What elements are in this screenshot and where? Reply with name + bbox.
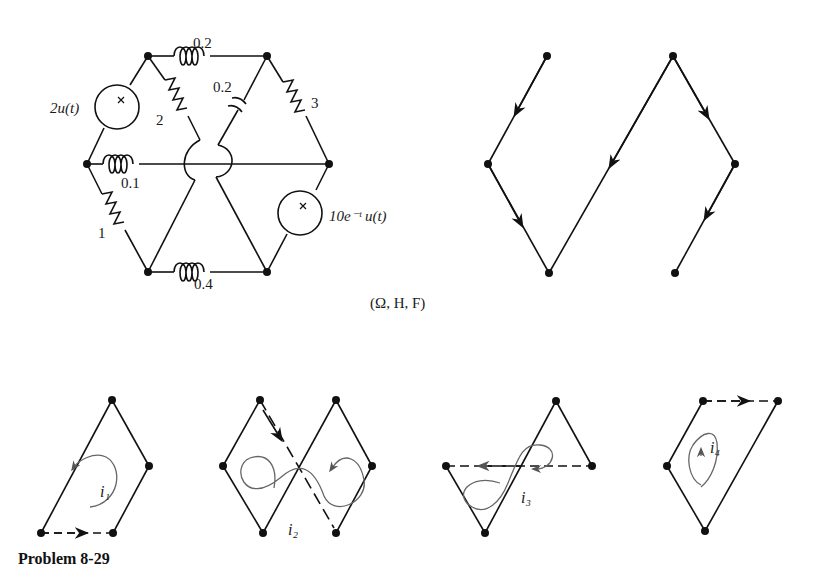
loop-4 xyxy=(667,401,778,531)
label-loop-i4: i₄ xyxy=(710,440,720,456)
source-right xyxy=(267,164,329,272)
label-loop-i2: i₂ xyxy=(288,522,298,538)
label-source-left: 2u(t) xyxy=(50,101,79,116)
source-left xyxy=(87,56,148,164)
circuit xyxy=(87,47,329,281)
diagram-canvas xyxy=(0,0,830,582)
label-inductor-bottom: 0.4 xyxy=(194,277,213,292)
resistor-3 xyxy=(267,56,329,164)
loop-3 xyxy=(446,401,592,533)
label-units: (Ω, H, F) xyxy=(370,296,425,311)
label-source-right: 10e⁻ᵗ u(t) xyxy=(329,209,387,224)
label-resistor-2: 2 xyxy=(156,113,164,128)
inductor-mid xyxy=(87,155,329,173)
loop-1 xyxy=(41,400,149,533)
problem-caption: Problem 8-29 xyxy=(18,550,110,568)
label-inductor-top: 0.2 xyxy=(193,36,212,51)
label-loop-i1: i₁ xyxy=(100,484,110,500)
loop-2 xyxy=(223,400,372,533)
label-resistor-1: 1 xyxy=(98,226,106,241)
label-inductor-mid: 0.1 xyxy=(121,176,140,191)
crossover xyxy=(184,140,232,180)
tree-graph xyxy=(488,56,735,273)
capacitor-diag xyxy=(218,56,267,145)
label-capacitor: 0.2 xyxy=(213,80,232,95)
label-resistor-3: 3 xyxy=(311,96,319,111)
label-loop-i3: i₃ xyxy=(521,490,531,506)
